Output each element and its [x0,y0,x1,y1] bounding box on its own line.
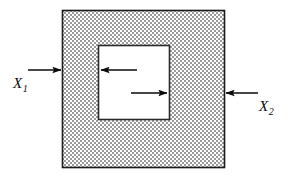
label-x1-subscript: 1 [22,83,28,94]
label-x2-subscript: 2 [268,106,274,117]
label-x1: X1 [13,76,28,94]
label-x2: X2 [259,99,274,117]
inner-square-cavity [99,46,170,120]
label-x2-base: X [259,98,268,114]
diagram-canvas [0,0,288,178]
label-x1-base: X [13,75,22,91]
force-diagram: X1 X2 [0,0,288,178]
